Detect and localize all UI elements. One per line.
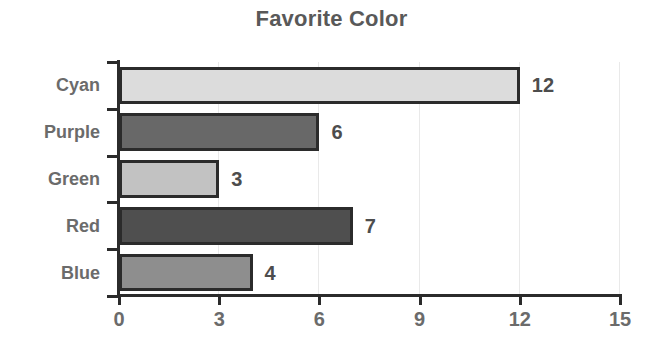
bar-row: 6 (119, 113, 620, 150)
y-axis-tick (107, 61, 119, 64)
y-axis-label-green: Green (0, 169, 100, 190)
x-axis-tick-label: 12 (509, 308, 531, 331)
y-axis-label-purple: Purple (0, 122, 100, 143)
bar-cyan[interactable] (119, 67, 520, 104)
y-axis-label-cyan: Cyan (0, 75, 100, 96)
bar-green[interactable] (119, 160, 219, 197)
bar-row: 4 (119, 254, 620, 291)
y-axis-tick (107, 155, 119, 158)
x-axis-tick-label: 3 (214, 308, 225, 331)
bar-value-label-red: 7 (365, 214, 376, 237)
bar-value-label-purple: 6 (331, 121, 342, 144)
bar-row: 12 (119, 67, 620, 104)
x-axis-tick-label: 9 (414, 308, 425, 331)
y-axis-label-blue: Blue (0, 262, 100, 283)
y-axis-label-red: Red (0, 215, 100, 236)
y-axis-labels: CyanPurpleGreenRedBlue (0, 0, 100, 346)
bar-chart: Favorite Color 126374 CyanPurpleGreenRed… (0, 0, 663, 346)
bar-row: 3 (119, 160, 620, 197)
bar-blue[interactable] (119, 254, 253, 291)
x-axis-tick-label: 15 (609, 308, 631, 331)
bar-purple[interactable] (119, 113, 319, 150)
y-axis-tick (107, 108, 119, 111)
bar-red[interactable] (119, 207, 353, 244)
plot-area: 126374 (119, 62, 620, 296)
bar-value-label-green: 3 (231, 167, 242, 190)
y-axis-tick (107, 201, 119, 204)
x-axis-tick-label: 0 (113, 308, 124, 331)
bar-value-label-cyan: 12 (532, 74, 554, 97)
bar-value-label-blue: 4 (265, 261, 276, 284)
x-axis-tick-label: 6 (314, 308, 325, 331)
bar-row: 7 (119, 207, 620, 244)
y-axis-tick (107, 248, 119, 251)
